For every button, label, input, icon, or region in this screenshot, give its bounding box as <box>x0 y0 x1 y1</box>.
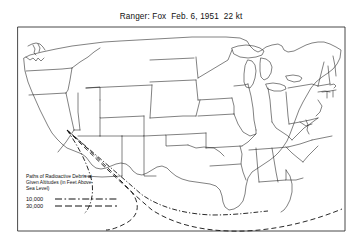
fallout-map-figure: Ranger: Fox Feb. 6, 1951 22 kt <box>0 0 362 248</box>
border-nv-ut <box>78 93 80 130</box>
border-ar-ms <box>240 146 242 164</box>
legend-entries: 10,000 30,000 <box>26 195 146 209</box>
border-ca-az <box>58 130 74 152</box>
border-wv-va <box>292 118 318 140</box>
border-mn-ia <box>198 98 232 100</box>
legend-caption: Paths of Radioactive Debris at Given Alt… <box>26 174 146 192</box>
lake-michigan <box>244 60 256 88</box>
border-id-mt <box>72 48 100 68</box>
border-ms-al <box>256 148 259 182</box>
border-mo-ky-tn <box>242 134 256 146</box>
coast-detail-nw <box>26 57 44 61</box>
border-nc-va <box>312 136 332 140</box>
border-nd-mn <box>196 57 198 78</box>
border-wa-or <box>26 68 72 71</box>
lake-erie <box>266 83 286 91</box>
border-mo-ar <box>206 146 242 148</box>
border-wy-sd-ne <box>150 85 152 118</box>
border-ia-mo <box>198 114 234 116</box>
border-sd-ne <box>150 80 196 82</box>
border-wy-ut-co <box>100 100 144 118</box>
border-ca-nv <box>66 93 74 130</box>
border-ny-ne <box>318 62 324 86</box>
lake-huron <box>260 58 272 80</box>
border-ky-oh-wv <box>272 122 292 140</box>
border-mt-wy <box>86 85 152 88</box>
border-mn-wi <box>198 50 232 78</box>
legend: Paths of Radioactive Debris at Given Alt… <box>26 174 146 209</box>
border-ne-ks <box>150 116 196 118</box>
border-nc-sc <box>303 146 318 162</box>
border-ne-ia-mo <box>196 100 200 116</box>
florida-detail <box>281 170 292 212</box>
border-al-ga <box>272 148 278 182</box>
legend-entry-10000: 10,000 <box>26 195 146 202</box>
border-ar-la <box>210 164 240 166</box>
lake-ontario <box>286 75 302 82</box>
border-pa-ny <box>288 84 318 88</box>
border-ga-fl-line <box>286 178 303 180</box>
legend-swatch-10000 <box>55 196 117 202</box>
legend-label-30000: 30,000 <box>26 203 53 209</box>
border-co-ks-ok <box>144 135 188 146</box>
border-ny-vt-ma <box>318 84 330 86</box>
page-title: Ranger: Fox Feb. 6, 1951 22 kt <box>0 12 362 21</box>
border-co-nm <box>122 116 144 136</box>
border-ga-fl-al <box>259 170 286 182</box>
border-id-wa-or <box>66 68 72 93</box>
border-nd-sd <box>150 58 194 60</box>
border-nj-de-md <box>316 100 322 116</box>
border-il-in <box>248 84 256 130</box>
border-la-ms <box>241 164 246 180</box>
border-or-ca <box>29 93 66 95</box>
legend-entry-30000: 30,000 <box>26 202 146 209</box>
legend-label-10000: 10,000 <box>26 196 53 202</box>
us-map-graphic <box>0 0 362 248</box>
border-ks-ok <box>166 133 206 135</box>
legend-swatch-30000 <box>55 203 117 209</box>
border-sd-ia <box>196 80 198 100</box>
border-id-wy <box>86 87 100 100</box>
border-oh-pa <box>286 92 289 124</box>
border-ga-sc <box>286 147 303 162</box>
border-vt-nh <box>328 66 330 84</box>
border-in-oh <box>268 88 272 122</box>
olympic-peninsula <box>28 43 45 50</box>
border-il-mo-ky <box>234 114 256 136</box>
border-ia-il <box>232 98 234 114</box>
border-tn-nc-va <box>288 140 312 147</box>
chesapeake-bay <box>306 120 309 134</box>
border-nm-tx <box>144 136 156 176</box>
border-wi-il <box>234 84 248 86</box>
border-ut-az-nm <box>78 118 122 136</box>
cape-cod <box>330 84 336 88</box>
